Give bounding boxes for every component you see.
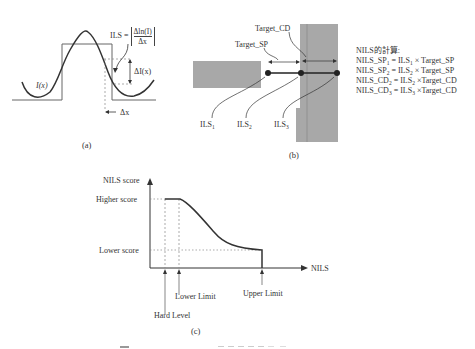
nils-formula-item: NILS_CD2 = ILS2 ×Target_CD [356, 76, 457, 86]
lower-limit-label: Lower Limit [175, 292, 216, 301]
nils-formula-item: NILS_SP1 = ILS1 × Target_SP [356, 56, 457, 66]
panel-a-caption: (a) [82, 140, 91, 150]
panel-c-caption: (c) [191, 326, 200, 336]
ils-formula: ILS = Δln(I) Δx [110, 27, 155, 46]
ils-2-label: ILS2 [237, 120, 252, 129]
ils-formula-lhs: ILS = [110, 31, 129, 40]
nils-formula-list: NILS的計算: NILS_SP1 = ILS1 × Target_SP NIL… [356, 46, 457, 96]
ils-fraction: Δln(I) Δx [131, 27, 155, 46]
ils-3-label: ILS3 [274, 120, 289, 129]
higher-score-label: Higher score [96, 195, 137, 204]
panel-c-graphics [147, 178, 308, 314]
intensity-function-label: I(x) [36, 81, 48, 90]
ils-1-label: ILS1 [200, 120, 215, 129]
nils-formula-title: NILS的計算: [356, 46, 457, 56]
figure-caption-cutoff [0, 343, 475, 349]
lower-score-label: Lower score [99, 246, 139, 255]
ils-denominator: Δx [134, 37, 152, 46]
nils-formula-item: NILS_CD3 = ILS3 ×Target_CD [356, 86, 457, 96]
delta-intensity-label: ΔI(x) [134, 67, 151, 76]
hard-level-label: Hard Level [154, 311, 190, 320]
delta-x-label: Δx [120, 108, 129, 117]
x-axis-label: NILS [311, 264, 329, 273]
nils-formula-item: NILS_SP2 = ILS2 × Target_SP [356, 66, 457, 76]
ils-numerator: Δln(I) [134, 27, 152, 37]
y-axis-label: NILS score [103, 176, 140, 185]
target-sp-label: Target_SP [235, 40, 268, 49]
panel-b-caption: (b) [289, 150, 299, 160]
caption-fragment [0, 343, 475, 349]
upper-limit-label: Upper Limit [243, 289, 283, 298]
target-cd-label: Target_CD [255, 24, 290, 33]
